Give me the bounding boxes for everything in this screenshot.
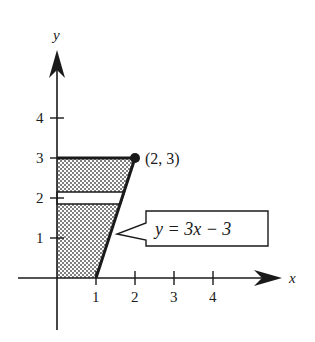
x-tick-label-1: 1 <box>92 289 100 305</box>
point-label: (2, 3) <box>145 150 180 168</box>
x-tick-label-4: 4 <box>209 289 217 305</box>
y-tick-label-1: 1 <box>36 230 44 246</box>
point-2-3-marker <box>130 153 140 163</box>
equation-label: y = 3x − 3 <box>153 219 231 239</box>
x-axis-label: x <box>288 270 296 286</box>
y-tick-label-2: 2 <box>36 190 44 206</box>
x-tick-label-3: 3 <box>170 289 178 305</box>
graph-canvas: y x 1 2 3 4 1 2 3 4 (2, 3) y = 3x − 3 <box>0 0 315 342</box>
x-tick-label-2: 2 <box>131 289 139 305</box>
y-axis-label: y <box>51 27 60 43</box>
y-tick-label-4: 4 <box>36 110 44 126</box>
y-tick-label-3: 3 <box>36 150 44 166</box>
equation-callout: y = 3x − 3 <box>117 211 268 246</box>
shaded-region <box>57 158 135 278</box>
